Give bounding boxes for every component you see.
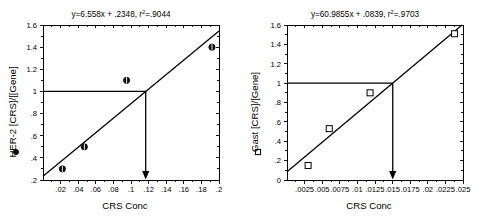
her2-x-tick-label: .04 <box>73 185 84 194</box>
gast-x-tick-label: .0125 <box>365 185 384 194</box>
gast-x-tick-label: .01 <box>352 185 363 194</box>
gast-regression-equation: y=60.9855x + .0839, r2=.9703 <box>311 9 420 19</box>
gast-x-tick-label: .02 <box>423 185 434 194</box>
her2-y-tick-label: 1.4 <box>26 43 37 52</box>
gast-y-tick-label: 1 <box>277 79 281 88</box>
gast-x-tick-label: .0025 <box>295 185 314 194</box>
her2-title-group: y=6.558x + .2348, r2=.9044 <box>71 9 171 19</box>
gast-axes: .0025.005.0075.01.0125.015.0175.02.0225.… <box>270 21 470 194</box>
gast-x-tick-label: .0075 <box>330 185 349 194</box>
her2-x-tick-label: .08 <box>108 185 119 194</box>
her2-x-tick-label: .16 <box>179 185 190 194</box>
her2-x-axis-title-group: CRS Conc <box>102 200 148 211</box>
gast-scatter-plot: y=60.9855x + .0839, r2=.9703 .0025.005.0… <box>242 0 483 217</box>
her2-y-tick-label: .6 <box>31 132 37 141</box>
gast-x-tick-label: .0225 <box>436 185 455 194</box>
gast-title-group: y=60.9855x + .0839, r2=.9703 <box>311 9 420 19</box>
her2-y-tick-label: .8 <box>31 109 37 118</box>
gast-y-tick-label: .6 <box>275 118 281 127</box>
gast-x-tick-label: .005 <box>315 185 330 194</box>
gast-x-tick-label: .025 <box>456 185 471 194</box>
her2-x-axis-title: CRS Conc <box>102 200 148 211</box>
her2-x-tick-label: .2 <box>216 185 222 194</box>
her2-y-axis-title-group: HER-2 [CRS]/[[Gene] <box>7 66 18 157</box>
gast-regression-line <box>287 25 462 172</box>
gast-y-tick-label: .8 <box>275 98 281 107</box>
figure-container: y=6.558x + .2348, r2=.9044 .02.04.06.08.… <box>0 0 483 217</box>
her2-x-tick-label: .14 <box>161 185 172 194</box>
her2-y-axis-title: HER-2 [CRS]/[[Gene] <box>7 66 18 157</box>
gast-reference-arrowhead <box>389 171 396 180</box>
her2-x-tick-label: .1 <box>128 185 134 194</box>
gast-y-axis-title-group: Gast [CRS]/[Gene] <box>249 72 260 152</box>
her2-reference-arrowhead <box>142 171 149 180</box>
her2-regression-line <box>43 31 219 176</box>
her2-regression-equation: y=6.558x + .2348, r2=.9044 <box>71 9 171 19</box>
her2-x-tick-label: .06 <box>91 185 102 194</box>
gast-data-point <box>452 31 458 37</box>
gast-x-axis-title: CRS Conc <box>346 200 392 211</box>
her2-x-tick-label: .02 <box>55 185 66 194</box>
her2-data-layer <box>13 31 219 180</box>
her2-y-tick-label: 1.6 <box>26 21 37 30</box>
gast-x-axis-title-group: CRS Conc <box>346 200 392 211</box>
chart-panel-gast: y=60.9855x + .0839, r2=.9703 .0025.005.0… <box>242 0 483 217</box>
chart-panel-her2: y=6.558x + .2348, r2=.9044 .02.04.06.08.… <box>0 0 241 217</box>
gast-y-tick-label: 1.4 <box>270 40 281 49</box>
her2-scatter-plot: y=6.558x + .2348, r2=.9044 .02.04.06.08.… <box>0 0 241 217</box>
gast-y-tick-label: 0 <box>277 176 281 185</box>
her2-y-tick-label: 1.2 <box>26 65 37 74</box>
gast-data-point <box>305 162 311 168</box>
gast-y-tick-label: .2 <box>275 156 281 165</box>
her2-x-tick-label: .18 <box>196 185 207 194</box>
her2-x-tick-label: .12 <box>143 185 154 194</box>
gast-y-tick-label: 1.6 <box>270 21 281 30</box>
her2-axes: .02.04.06.08.1.12.14.16.18.2.2.4.6.811.2… <box>26 21 222 194</box>
gast-y-tick-label: .4 <box>275 137 281 146</box>
gast-data-point <box>326 126 332 132</box>
gast-data-point <box>367 90 373 96</box>
her2-y-tick-label: 1 <box>33 87 37 96</box>
gast-y-tick-label: 1.2 <box>270 60 281 69</box>
gast-x-tick-label: .0175 <box>401 185 420 194</box>
her2-y-tick-label: .4 <box>31 154 37 163</box>
her2-y-tick-label: .2 <box>31 176 37 185</box>
gast-x-tick-label: .015 <box>385 185 400 194</box>
gast-y-axis-title: Gast [CRS]/[Gene] <box>249 72 260 152</box>
